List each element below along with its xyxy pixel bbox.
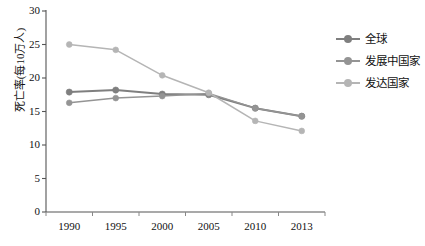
legend-dot	[344, 57, 352, 65]
legend-marker-icon	[336, 78, 360, 88]
x-axis-tick-label: 2010	[232, 221, 278, 232]
legend-label: 发达国家	[365, 77, 409, 89]
legend-item: 全球	[336, 32, 420, 45]
legend-marker-icon	[336, 34, 360, 44]
legend-label: 全球	[365, 33, 387, 45]
x-axis-tick-label: 2005	[186, 221, 232, 232]
legend-label: 发展中国家	[365, 55, 420, 67]
legend-marker-icon	[336, 56, 360, 66]
legend-dot	[344, 79, 352, 87]
x-axis-tick-label: 2013	[279, 221, 325, 232]
legend-item: 发达国家	[336, 76, 420, 89]
legend-item: 发展中国家	[336, 54, 420, 67]
x-axis-tick-label: 1995	[93, 221, 139, 232]
chart-legend: 全球发展中国家发达国家	[336, 32, 420, 89]
x-axis-tick-label: 2000	[139, 221, 185, 232]
x-axis-tick-label: 1990	[46, 221, 92, 232]
line-chart: 死亡率(每10万人) 302520151050 1990199520002005…	[0, 0, 425, 246]
legend-dot	[344, 35, 352, 43]
